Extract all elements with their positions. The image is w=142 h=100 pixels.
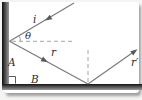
angle-theta-arc	[19, 36, 21, 42]
angle-theta-label: θ	[25, 30, 31, 41]
vertical-mirror	[2, 2, 9, 90]
second-reflected-ray	[88, 51, 135, 84]
right-angle-marker	[9, 77, 16, 84]
incident-ray-label: i	[33, 13, 36, 25]
reflected-ray-label: r	[51, 46, 57, 58]
reflected-ray-arrowhead-icon	[41, 57, 50, 65]
reflection-diagram: i θ r A B r′	[0, 0, 142, 100]
second-reflected-ray-arrowhead-icon	[130, 47, 139, 55]
point-b-label: B	[30, 73, 39, 85]
reflected-ray	[10, 41, 89, 84]
horizontal-mirror	[2, 84, 142, 90]
incident-ray-arrowhead-icon	[44, 15, 53, 23]
second-reflected-ray-label: r′	[131, 56, 139, 68]
point-a-label: A	[7, 56, 16, 68]
two-mirror-reflection-figure: i θ r A B r′	[0, 0, 142, 100]
